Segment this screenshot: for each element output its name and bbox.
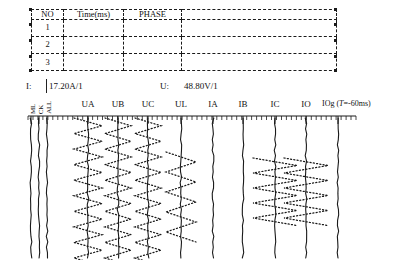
table-corner-marker [29,69,32,72]
cell-no: 1 [32,19,64,36]
table-corner-marker [29,23,32,26]
table-row[interactable]: 2 [32,36,337,53]
channel-label-ua: UA [82,97,95,111]
voltage-value: 48.80V/1 [184,79,218,93]
cell-time[interactable] [64,19,124,36]
channel-label-ia: IA [208,97,218,111]
table-corner-marker [334,8,337,11]
table-corner-marker [334,23,337,26]
table-corner-marker [334,55,337,58]
iog-annotation-suffix: =-60ms) [344,99,371,108]
cell-time[interactable] [64,53,124,70]
measurement-readout: I: 17.20A/1 U: 48.80V/1 [26,79,386,93]
col-header-phase: PHASE [124,10,182,20]
channel-label-ul: UL [175,97,187,111]
col-header-time: Time(ms) [64,10,124,20]
cell-extra[interactable] [182,19,337,36]
channel-label-ic: IC [271,97,280,111]
voltage-label: U: [160,79,169,93]
current-value: 17.20A/1 [46,79,83,93]
channel-label-uc: UC [142,97,155,111]
oscillograph-page: NO Time(ms) PHASE 1 2 [0,0,410,266]
table-corner-marker [29,8,32,11]
waveform-svg [0,112,410,260]
cell-no: 3 [32,53,64,70]
cell-phase[interactable] [124,53,182,70]
current-label: I: [26,79,32,93]
channel-label-io: IO [301,97,311,111]
cell-time[interactable] [64,36,124,53]
table-header-row: NO Time(ms) PHASE [32,10,337,20]
trace-group [30,118,339,260]
channel-label-ib: IB [239,97,248,111]
table-corner-marker [29,39,32,42]
col-header-extra [182,10,337,20]
waveform-plot [0,112,410,260]
table-corner-marker [334,69,337,72]
event-table-wrap: NO Time(ms) PHASE 1 2 [31,9,336,71]
table-row[interactable]: 1 [32,19,337,36]
channel-label-row: ML CK ALL UA UB UC UL IA IB IC IO IOg (T… [0,97,410,113]
table-corner-marker [29,55,32,58]
col-header-no: NO [32,10,64,20]
cell-phase[interactable] [124,36,182,53]
cell-no: 2 [32,36,64,53]
table-corner-marker [334,39,337,42]
event-table: NO Time(ms) PHASE 1 2 [31,9,337,71]
cell-phase[interactable] [124,19,182,36]
iog-annotation: IOg (T=-60ms) [322,97,371,111]
cell-extra[interactable] [182,53,337,70]
iog-annotation-prefix: IOg ( [322,99,339,108]
channel-label-ub: UB [112,97,125,111]
table-row[interactable]: 3 [32,53,337,70]
cell-extra[interactable] [182,36,337,53]
